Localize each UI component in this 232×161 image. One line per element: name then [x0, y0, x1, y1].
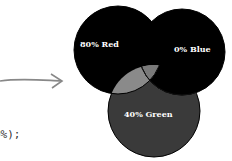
arrow-icon [0, 74, 62, 88]
red-label: 80% Red [80, 39, 119, 49]
venn-diagram: 80% Red 0% Blue 40% Green [0, 0, 232, 161]
code-fragment: 0%); [0, 128, 21, 141]
green-label: 40% Green [124, 109, 173, 119]
blue-label: 0% Blue [174, 44, 211, 54]
